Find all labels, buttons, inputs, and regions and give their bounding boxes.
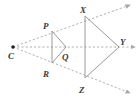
label-r: R bbox=[42, 69, 49, 79]
dashed-ray-c-through-r-z bbox=[13, 47, 130, 93]
label-q: Q bbox=[62, 52, 69, 62]
label-z: Z bbox=[78, 85, 85, 95]
geometry-canvas: C P Q R X Y Z bbox=[0, 0, 140, 103]
dilation-figure: C P Q R X Y Z bbox=[0, 0, 140, 103]
label-y: Y bbox=[120, 37, 127, 47]
label-c: C bbox=[8, 51, 15, 61]
center-of-dilation-point bbox=[11, 45, 15, 49]
label-p: P bbox=[43, 21, 49, 31]
label-x: X bbox=[79, 5, 87, 15]
